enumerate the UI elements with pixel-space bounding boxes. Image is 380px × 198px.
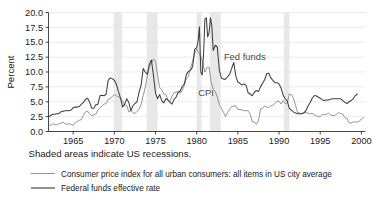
x-tick-label-2000: 2000 bbox=[351, 136, 371, 146]
legend: Consumer price index for all urban consu… bbox=[31, 170, 332, 194]
x-tick-label-1985: 1985 bbox=[228, 136, 248, 146]
cpi-annotation: CPI bbox=[198, 87, 214, 98]
y-tick-label-10: 10.0 bbox=[25, 67, 43, 77]
fed-funds-annotation: Fed funds bbox=[224, 51, 266, 62]
legend-entry-fed-funds-label: Federal funds effective rate bbox=[61, 184, 161, 193]
y-tick-label-0: 0.0 bbox=[30, 127, 43, 137]
y-tick-label-12.5: 12.5 bbox=[25, 52, 43, 62]
y-tick-label-15: 15.0 bbox=[25, 37, 43, 47]
line-chart: 0.02.55.07.510.012.515.017.520.019651970… bbox=[0, 0, 380, 198]
y-tick-label-5: 5.0 bbox=[30, 97, 43, 107]
legend-entry-cpi-label: Consumer price index for all urban consu… bbox=[61, 170, 332, 179]
x-tick-label-1970: 1970 bbox=[104, 136, 124, 146]
x-tick-label-1980: 1980 bbox=[186, 136, 206, 146]
y-tick-label-17.5: 17.5 bbox=[25, 23, 43, 33]
chart-figure: 0.02.55.07.510.012.515.017.520.019651970… bbox=[0, 0, 380, 198]
y-axis: 0.02.55.07.510.012.515.017.520.0 bbox=[25, 8, 48, 137]
y-tick-label-2.5: 2.5 bbox=[30, 112, 43, 122]
series-line-fed-funds bbox=[49, 18, 358, 117]
x-tick-label-1995: 1995 bbox=[310, 136, 330, 146]
x-tick-label-1965: 1965 bbox=[63, 136, 83, 146]
y-axis-label: Percent bbox=[5, 55, 16, 88]
y-tick-label-7.5: 7.5 bbox=[30, 82, 43, 92]
x-axis: 19651970197519801985199019952000 bbox=[63, 132, 372, 147]
y-tick-label-20: 20.0 bbox=[25, 8, 43, 18]
x-tick-label-1990: 1990 bbox=[269, 136, 289, 146]
recession-caption: Shaded areas indicate US recessions. bbox=[29, 148, 192, 159]
x-tick-label-1975: 1975 bbox=[145, 136, 165, 146]
